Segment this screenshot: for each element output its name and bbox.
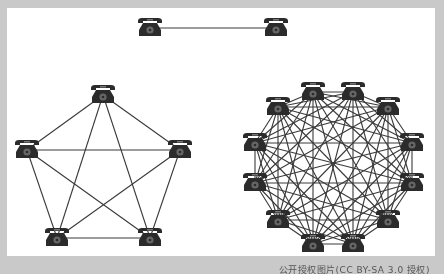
telephone-icon (266, 97, 290, 115)
telephone-icon (138, 228, 162, 246)
connection-lines (27, 28, 412, 244)
five-phone-network-edges (27, 95, 180, 238)
telephone-network-diagram (0, 0, 444, 274)
telephone-icon (400, 133, 424, 151)
telephone-icon (341, 234, 365, 252)
figure-caption: 公开授权图片(CC BY-SA 3.0 授权) (279, 263, 430, 274)
telephone-icon (266, 210, 290, 228)
telephone-icon (168, 140, 192, 158)
telephone-icon (91, 85, 115, 103)
telephone-icon (15, 140, 39, 158)
telephone-icon (376, 97, 400, 115)
telephone-icon (243, 173, 267, 191)
telephone-icon (376, 210, 400, 228)
telephone-icon (138, 18, 162, 36)
telephone-icon (400, 173, 424, 191)
telephone-icon (301, 82, 325, 100)
telephone-icon (45, 228, 69, 246)
telephone-icon (341, 82, 365, 100)
telephone-icon (301, 234, 325, 252)
telephone-icon (243, 133, 267, 151)
telephones (15, 18, 424, 252)
telephone-icon (264, 18, 288, 36)
